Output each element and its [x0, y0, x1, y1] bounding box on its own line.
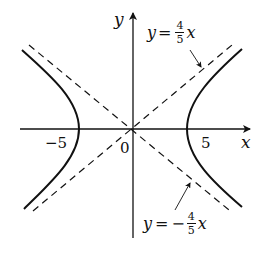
eq2-fraction: 4 5 — [187, 211, 196, 236]
eq1-fraction: 4 5 — [175, 20, 184, 45]
pointer-arrow-upper — [190, 50, 201, 67]
hyperbola-diagram: y x 0 −5 5 y = 4 5 x y = − 4 5 x — [0, 0, 265, 253]
eq2-numerator: 4 — [187, 211, 196, 224]
eq2-variable: x — [198, 216, 207, 232]
eq1-lhs: y — [147, 25, 156, 41]
tick-label-5: 5 — [201, 136, 211, 151]
eq2-equals: = — [155, 216, 168, 232]
equation-upper-asymptote: y = 4 5 x — [147, 20, 195, 45]
y-axis-label: y — [114, 11, 124, 28]
eq1-equals: = — [158, 25, 171, 41]
eq2-denominator: 5 — [188, 224, 195, 236]
hyperbola-right-branch — [187, 49, 242, 207]
eq2-sign: − — [171, 216, 184, 232]
plot-canvas — [0, 0, 265, 253]
pointer-arrow-lower — [175, 183, 190, 210]
eq1-denominator: 5 — [176, 33, 183, 45]
origin-label: 0 — [120, 141, 130, 156]
equation-lower-asymptote: y = − 4 5 x — [143, 211, 207, 236]
eq1-numerator: 4 — [175, 20, 184, 33]
eq2-lhs: y — [143, 216, 152, 232]
tick-label-neg5: −5 — [45, 136, 67, 151]
x-axis-label: x — [241, 134, 251, 151]
eq1-variable: x — [186, 25, 195, 41]
asymptote-negative-slope — [29, 45, 229, 210]
